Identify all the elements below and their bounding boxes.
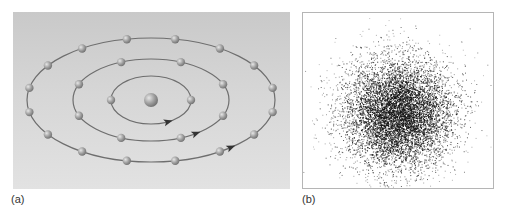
electron (268, 108, 276, 116)
electron (44, 130, 52, 138)
electron (123, 35, 131, 43)
panel-b-label: (b) (302, 193, 315, 205)
panel-a-label: (a) (11, 193, 24, 205)
electron (107, 96, 115, 104)
electron (123, 157, 131, 165)
bohr-model-diagram (13, 12, 290, 189)
electron (219, 80, 227, 88)
electron (177, 58, 185, 66)
electron (117, 58, 125, 66)
electron (78, 44, 86, 52)
electron (25, 108, 33, 116)
electron (250, 61, 258, 69)
electron (25, 84, 33, 92)
nucleus (144, 93, 158, 107)
electron (219, 111, 227, 119)
electron (78, 147, 86, 155)
electron (75, 80, 83, 88)
electron (250, 130, 258, 138)
electron (171, 157, 179, 165)
electron-cloud-panel (302, 12, 494, 189)
electron (117, 134, 125, 142)
orbit-direction-arrow-icon (191, 129, 202, 139)
electron (187, 96, 195, 104)
electron (75, 111, 83, 119)
electron (216, 147, 224, 155)
electron (177, 134, 185, 142)
orbit-direction-arrow-icon (163, 117, 174, 126)
bohr-model-panel (13, 12, 290, 189)
electron (268, 84, 276, 92)
orbit-direction-arrow-icon (226, 142, 237, 152)
electron (171, 35, 179, 43)
electron-cloud-plot (303, 13, 493, 188)
electron (216, 44, 224, 52)
electron (44, 61, 52, 69)
